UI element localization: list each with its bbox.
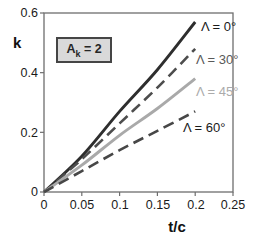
annotation-text: Ak = 2 [66,42,101,59]
x-tick-label: 0.05 [62,199,102,211]
x-tick-label: 0.15 [138,199,178,211]
x-tick-label: 0 [24,199,64,211]
curve-lambda-=-45-deg [44,79,195,192]
y-tick-label: 0.4 [6,67,38,79]
x-axis-title: t/c [157,218,197,235]
y-axis-title: k [13,34,21,51]
series-label-30deg: Λ = 30° [196,53,238,67]
series-label-0deg: Λ = 0° [201,20,236,34]
annotation-box: Ak = 2 [56,37,112,63]
y-tick-label: 0.6 [6,7,38,19]
y-tick-label: 0.2 [6,127,38,139]
x-tick-label: 0.2 [176,199,216,211]
line-chart: 0.6 0.4 0.2 0 0 0.05 0.1 0.15 0.2 0.25 k… [0,0,257,246]
x-tick-label: 0.1 [100,199,140,211]
y-tick-label: 0 [6,186,38,198]
series-label-60deg: Λ = 60° [183,121,225,135]
x-tick-label: 0.25 [213,199,253,211]
series-label-45deg: Λ = 45° [196,85,238,99]
